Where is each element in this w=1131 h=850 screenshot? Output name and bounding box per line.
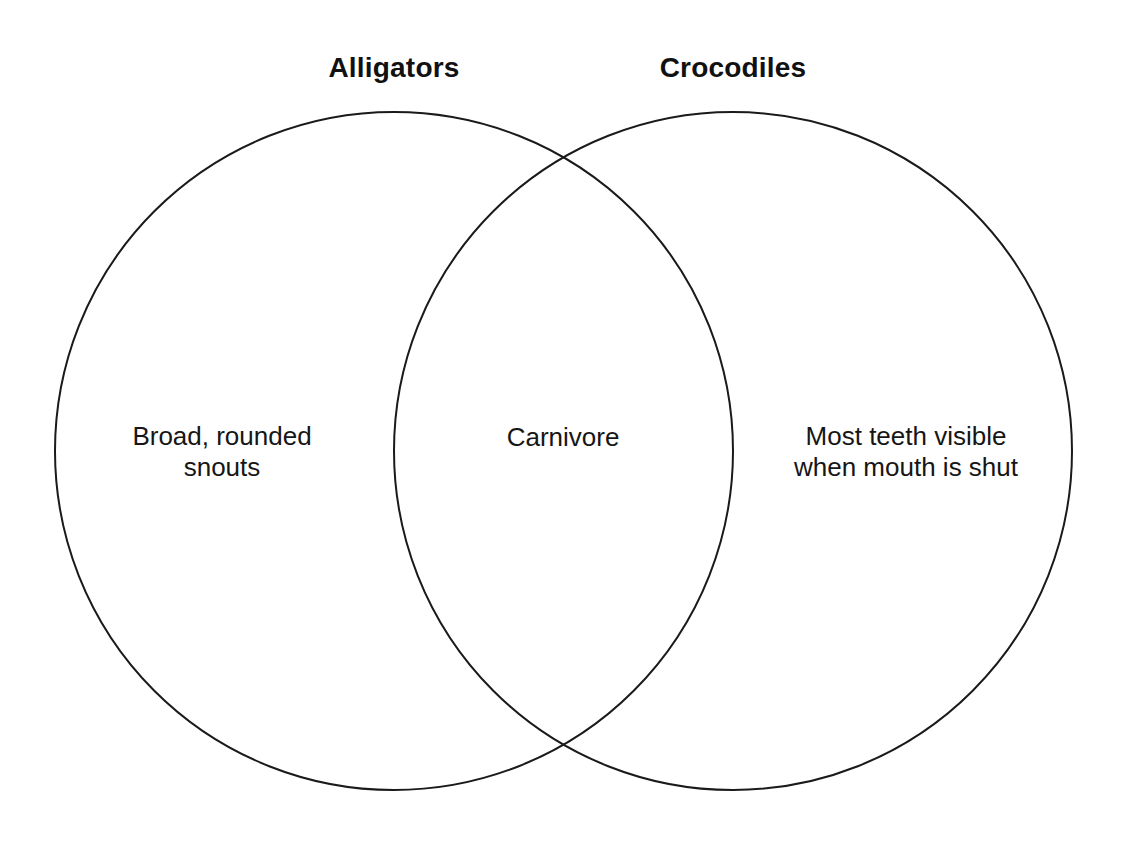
set-title-crocodiles: Crocodiles: [660, 52, 807, 84]
region-label-alligators-only: Broad, rounded snouts: [57, 421, 387, 482]
region-label-intersection: Carnivore: [473, 422, 653, 453]
set-title-alligators: Alligators: [328, 52, 459, 84]
venn-diagram-canvas: Alligators Crocodiles Broad, rounded sno…: [0, 0, 1131, 850]
region-label-crocodiles-only: Most teeth visible when mouth is shut: [736, 421, 1076, 482]
